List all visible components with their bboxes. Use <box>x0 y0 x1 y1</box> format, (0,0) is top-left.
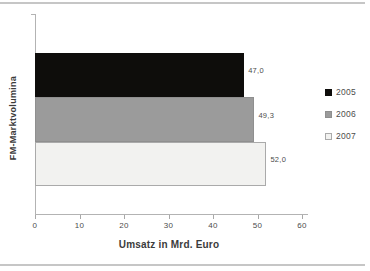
legend-swatch-2006 <box>325 111 332 118</box>
bar-2005 <box>35 53 244 97</box>
bar-2006 <box>35 97 254 141</box>
x-axis-tick <box>80 215 81 219</box>
bar-value-2005: 47,0 <box>248 66 264 75</box>
legend-label-2006: 2006 <box>336 110 356 119</box>
x-axis-tick-label: 60 <box>290 221 314 230</box>
bar-2007 <box>35 142 266 186</box>
x-axis-tick-label: 10 <box>68 221 92 230</box>
x-axis-tick <box>258 215 259 219</box>
bottom-divider <box>0 264 365 266</box>
x-axis-tick <box>213 215 214 219</box>
bar-value-2007: 52,0 <box>270 155 286 164</box>
bar-value-2006: 49,3 <box>258 111 274 120</box>
top-divider <box>0 2 365 4</box>
x-axis-tick <box>35 215 36 219</box>
legend-entry-2007: 2007 <box>325 132 356 154</box>
legend-entry-2006: 2006 <box>325 110 356 132</box>
x-axis-tick-label: 30 <box>157 221 181 230</box>
x-axis-tick-label: 0 <box>23 221 47 230</box>
chart-page: FM-Marktvolumina Umsatz in Mrd. Euro 010… <box>0 0 370 271</box>
x-axis-line <box>35 214 308 215</box>
x-axis-tick <box>124 215 125 219</box>
legend-swatch-2005 <box>325 89 332 96</box>
x-axis-tick <box>302 215 303 219</box>
x-axis-tick <box>169 215 170 219</box>
x-axis-tick-label: 40 <box>201 221 225 230</box>
legend-label-2005: 2005 <box>336 88 356 97</box>
y-axis-top-tick <box>31 14 35 15</box>
y-axis-title: FM-Marktvolumina <box>8 58 18 178</box>
x-axis-title: Umsatz in Mrd. Euro <box>35 239 303 250</box>
legend-label-2007: 2007 <box>336 132 356 141</box>
legend-entry-2005: 2005 <box>325 88 356 110</box>
legend-swatch-2007 <box>325 133 332 140</box>
x-axis-tick-label: 50 <box>246 221 270 230</box>
legend: 200520062007 <box>325 88 356 154</box>
x-axis-tick-label: 20 <box>112 221 136 230</box>
